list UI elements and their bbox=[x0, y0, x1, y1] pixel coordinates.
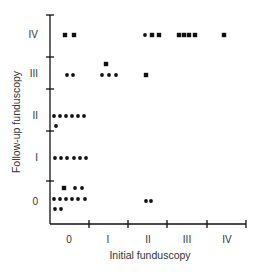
y-tick-label: IV bbox=[29, 29, 39, 40]
data-point-square bbox=[177, 33, 181, 37]
x-tick-labels: 0 I II III IV bbox=[66, 234, 232, 245]
scatter-chart: 0 I II III IV 0 I II III IV Initial fund… bbox=[0, 0, 260, 275]
data-point-dot bbox=[53, 156, 57, 160]
data-point-dot bbox=[73, 186, 77, 190]
data-point-dot bbox=[78, 156, 82, 160]
data-point-dot bbox=[107, 73, 111, 77]
data-point-square bbox=[63, 33, 67, 37]
data-markers bbox=[52, 33, 226, 211]
x-tick-label: IV bbox=[222, 234, 232, 245]
data-point-dot bbox=[70, 114, 74, 118]
data-point-dot bbox=[72, 156, 76, 160]
axes bbox=[46, 15, 246, 228]
data-point-square bbox=[157, 33, 161, 37]
data-point-dot bbox=[59, 207, 63, 211]
data-point-dot bbox=[83, 197, 87, 201]
data-point-square bbox=[187, 33, 191, 37]
y-tick-label: II bbox=[32, 110, 38, 121]
y-tick-label: 0 bbox=[32, 196, 38, 207]
data-point-dot bbox=[65, 156, 69, 160]
data-point-dot bbox=[53, 207, 57, 211]
data-point-dot bbox=[84, 156, 88, 160]
x-tick-label: II bbox=[145, 234, 151, 245]
x-tick-label: III bbox=[183, 234, 191, 245]
data-point-dot bbox=[71, 73, 75, 77]
data-point-dot bbox=[64, 197, 68, 201]
data-point-dot bbox=[149, 199, 153, 203]
data-point-dot bbox=[59, 156, 63, 160]
data-point-dot bbox=[52, 114, 56, 118]
data-point-square bbox=[144, 73, 148, 77]
data-point-dot bbox=[80, 186, 84, 190]
data-point-square bbox=[104, 62, 108, 66]
data-point-dot bbox=[58, 197, 62, 201]
data-point-square bbox=[182, 33, 186, 37]
data-point-dot bbox=[82, 114, 86, 118]
data-point-square bbox=[62, 186, 66, 190]
x-tick-label: I bbox=[107, 234, 110, 245]
data-point-dot bbox=[54, 124, 58, 128]
y-tick-label: III bbox=[30, 68, 38, 79]
data-point-dot bbox=[100, 73, 104, 77]
data-point-dot bbox=[58, 114, 62, 118]
data-point-dot bbox=[144, 199, 148, 203]
data-point-dot bbox=[65, 73, 69, 77]
data-point-dot bbox=[114, 73, 118, 77]
data-point-dot bbox=[70, 197, 74, 201]
data-point-dot bbox=[64, 114, 68, 118]
data-point-dot bbox=[143, 33, 147, 37]
data-point-square bbox=[222, 33, 226, 37]
y-tick-label: I bbox=[35, 152, 38, 163]
data-point-dot bbox=[52, 197, 56, 201]
x-axis-title: Initial funduscopy bbox=[109, 249, 191, 261]
data-point-dot bbox=[76, 197, 80, 201]
data-point-square bbox=[72, 33, 76, 37]
x-tick-label: 0 bbox=[66, 234, 72, 245]
data-point-square bbox=[150, 33, 154, 37]
y-axis-title: Follow-up funduscopy bbox=[10, 70, 22, 173]
data-point-square bbox=[193, 33, 197, 37]
y-tick-labels: 0 I II III IV bbox=[29, 29, 39, 207]
data-point-dot bbox=[76, 114, 80, 118]
